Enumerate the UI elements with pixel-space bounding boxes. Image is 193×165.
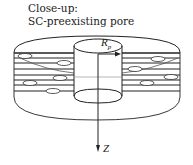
pore-diagram: Rp Z	[0, 0, 193, 165]
outer-disk-bottom	[14, 97, 180, 120]
z-axis-label: Z	[103, 142, 110, 154]
